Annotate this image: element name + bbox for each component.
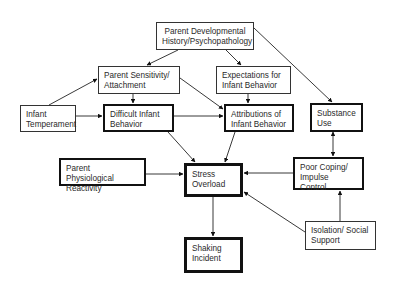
node-shaking: ShakingIncident (184, 237, 243, 273)
node-stress: StressOverload (184, 163, 243, 197)
node-label-line1: Poor Coping/ (300, 163, 357, 173)
arrow-isolation-to-stress (244, 192, 305, 232)
node-label-line1: Shaking (192, 244, 235, 254)
node-label-line1: Difficult Infant (110, 110, 167, 120)
node-label-line2: Incident (192, 254, 235, 264)
shaken-baby-risk-model-diagram: Parent DevelopmentalHistory/Psychopathol… (0, 0, 395, 286)
arrow-difficult-to-stress (168, 132, 195, 162)
node-label-line2: Infant Behavior (222, 81, 285, 91)
node-label-line1: Stress (192, 170, 235, 180)
node-label-line1: Infant (26, 110, 70, 120)
node-attrib: Attributions ofInfant Behavior (224, 104, 294, 132)
node-label-line2: Overload (192, 180, 235, 190)
node-label-line1: Isolation/ Social (311, 226, 370, 236)
arrow-parent-dev-to-expect (226, 50, 241, 65)
arrow-attrib-to-stress (225, 132, 235, 162)
node-label-line2: Support (311, 236, 370, 246)
node-parent-dev: Parent DevelopmentalHistory/Psychopathol… (156, 22, 254, 50)
node-substance: SubstanceUse (310, 103, 363, 132)
node-label-line2: Use (317, 119, 356, 129)
node-label-line1: Substance (317, 109, 356, 119)
node-label-line2: Reactivity (66, 184, 139, 194)
node-label-line1: Expectations for (222, 71, 285, 81)
node-label-line2: Impulse Control (300, 173, 357, 193)
node-label-line1: Attributions of (231, 110, 287, 120)
node-phys: Parent PhysiologicalReactivity (59, 158, 146, 186)
node-label-line2: History/Psychopathology (162, 37, 248, 47)
node-label-line1: Parent Physiological (66, 164, 139, 184)
node-isolation: Isolation/ SocialSupport (305, 221, 376, 250)
arrow-parent-dev-to-parent-sens (147, 50, 178, 65)
node-label-line1: Parent Sensitivity/ (104, 71, 174, 81)
arrow-infant-temp-to-parent-sens (49, 79, 97, 105)
node-parent-sens: Parent Sensitivity/Attachment (98, 66, 180, 94)
node-infant-temp: InfantTemperament (20, 105, 76, 132)
node-label-line2: Behavior (110, 120, 167, 130)
node-expect: Expectations forInfant Behavior (216, 66, 291, 94)
node-difficult: Difficult InfantBehavior (103, 104, 174, 132)
node-label-line2: Infant Behavior (231, 120, 287, 130)
node-label-line2: Temperament (26, 120, 70, 130)
node-label-line2: Attachment (104, 81, 174, 91)
node-label-line1: Parent Developmental (162, 27, 248, 37)
node-coping: Poor Coping/Impulse Control (293, 157, 364, 190)
